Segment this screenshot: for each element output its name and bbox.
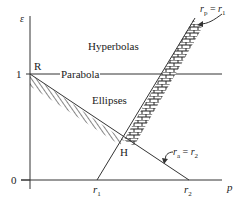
y-axis-label: ε bbox=[20, 13, 24, 24]
parabola-label: Parabola bbox=[61, 68, 100, 80]
hyperbolas-label: Hyperbolas bbox=[88, 40, 139, 52]
x-tick-label-r1: r1 bbox=[93, 183, 101, 198]
y-tick-label-1: 1 bbox=[16, 68, 22, 80]
transfer-orbit-diagram: ε p 1 0 r1 r2 Hyperbolas Parabola Ellips… bbox=[0, 0, 251, 206]
ellipses-label: Ellipses bbox=[92, 94, 127, 106]
y-tick-label-0: 0 bbox=[11, 174, 17, 186]
hyperbola-forbidden-band bbox=[124, 20, 202, 146]
ra-eq-r2-label: ra = r2 bbox=[173, 146, 199, 160]
point-R-label: R bbox=[34, 60, 42, 72]
x-axis-label: p bbox=[226, 181, 233, 193]
rp-eq-r1-label: rp = r1 bbox=[200, 3, 226, 17]
point-H-label: H bbox=[120, 146, 128, 158]
x-tick-label-r2: r2 bbox=[184, 183, 192, 198]
ellipse-forbidden-band bbox=[30, 74, 124, 145]
